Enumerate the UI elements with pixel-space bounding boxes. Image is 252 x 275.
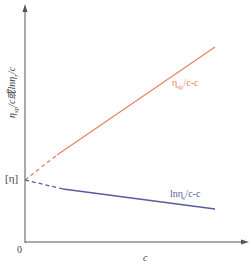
sp-line: [57, 47, 215, 155]
x-axis-label: c: [143, 252, 147, 263]
y-axis-arrow-icon: [23, 4, 28, 12]
x-axis-arrow-icon: [241, 240, 249, 245]
ln-series-label: lnηr/c-c: [170, 188, 200, 202]
intercept-label: [η]: [5, 172, 18, 184]
chart-canvas: [0, 0, 252, 275]
ln-line-extrapolation: [25, 180, 63, 189]
origin-label: 0: [17, 244, 22, 255]
sp-series-label: ηsp/c-c: [172, 77, 198, 91]
sp-line-extrapolation: [25, 155, 57, 180]
y-axis-label: ηsp/c或lnηr/c: [3, 67, 20, 118]
